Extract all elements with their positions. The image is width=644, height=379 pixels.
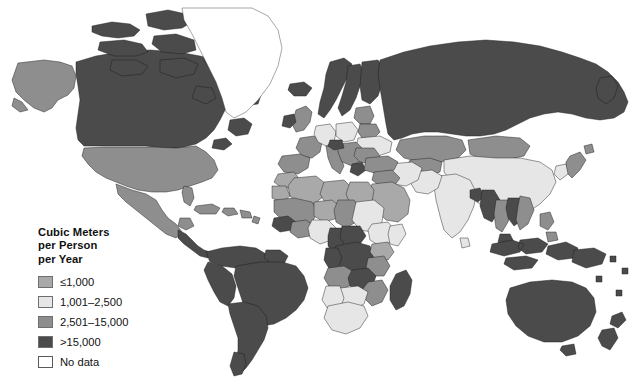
legend-label-no-data: No data: [60, 356, 99, 368]
region-baltic-states: [354, 106, 374, 124]
legend-title-line-1: Cubic Meters: [38, 226, 186, 239]
legend-swatch-class-4: [38, 336, 53, 348]
legend-label-class-4: >15,000: [60, 336, 101, 348]
legend-item-class-1: ≤1,000: [36, 272, 186, 291]
legend-title: Cubic Meters per Person per Year: [38, 226, 186, 266]
legend-item-class-3: 2,501–15,000: [36, 312, 186, 331]
legend-title-line-2: per Person: [38, 239, 186, 252]
world-choropleth-map: Cubic Meters per Person per Year ≤1,000 …: [0, 0, 644, 379]
legend-swatch-class-3: [38, 316, 53, 328]
map-legend: Cubic Meters per Person per Year ≤1,000 …: [36, 226, 186, 372]
legend-swatch-no-data: [38, 356, 53, 368]
legend-label-class-2: 1,001–2,500: [60, 296, 122, 308]
legend-swatch-class-1: [38, 276, 53, 288]
legend-title-line-3: per Year: [38, 253, 186, 266]
legend-swatch-class-2: [38, 296, 53, 308]
legend-item-no-data: No data: [36, 352, 186, 371]
legend-label-class-1: ≤1,000: [60, 276, 94, 288]
country-sri-lanka: [460, 238, 470, 248]
legend-item-class-2: 1,001–2,500: [36, 292, 186, 311]
legend-label-class-3: 2,501–15,000: [60, 316, 128, 328]
legend-item-class-4: >15,000: [36, 332, 186, 351]
